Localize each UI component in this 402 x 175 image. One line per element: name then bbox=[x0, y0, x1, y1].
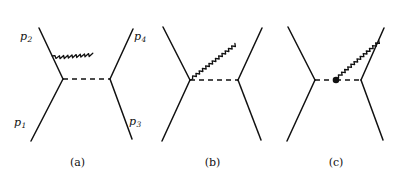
fermion-line-upper-left-c bbox=[288, 27, 315, 80]
fermion-line-upper-right-a bbox=[110, 29, 133, 79]
panel-caption-c: (c) bbox=[270, 156, 402, 169]
momentum-label-p1: p1 bbox=[14, 117, 26, 128]
fermion-line-left-a bbox=[31, 79, 63, 141]
diagram-svg-b bbox=[150, 0, 275, 175]
diagram-panel-b: (b) bbox=[150, 0, 275, 175]
photon-line-c bbox=[336, 40, 379, 79]
diagram-svg-c bbox=[270, 0, 402, 175]
fermion-line-lower-left-b bbox=[162, 80, 190, 141]
momentum-label-p2: p2 bbox=[20, 31, 32, 42]
photon-line-b bbox=[190, 43, 235, 80]
fermion-line-upper-left-b bbox=[163, 27, 190, 80]
feynman-diagram-figure: p2 p1 p4 p3 (a) (b) bbox=[0, 0, 402, 175]
momentum-label-p3: p3 bbox=[129, 116, 141, 127]
momentum-label-p4: p4 bbox=[134, 31, 146, 42]
panel-caption-b: (b) bbox=[150, 156, 275, 169]
panel-caption-a: (a) bbox=[0, 156, 155, 169]
fermion-line-upper-right-b bbox=[238, 28, 262, 80]
propagator-vertex-dot-c bbox=[333, 77, 340, 84]
fermion-line-lower-right-c bbox=[361, 80, 383, 140]
fermion-line-lower-right-a bbox=[110, 79, 132, 139]
diagram-svg-a bbox=[0, 0, 155, 175]
diagram-panel-a: p2 p1 p4 p3 (a) bbox=[0, 0, 155, 175]
fermion-line-upper-left-a bbox=[39, 28, 63, 79]
photon-line-a bbox=[52, 53, 93, 58]
fermion-line-lower-right-b bbox=[238, 80, 261, 140]
diagram-panel-c: (c) bbox=[270, 0, 402, 175]
fermion-line-lower-left-c bbox=[287, 80, 315, 141]
